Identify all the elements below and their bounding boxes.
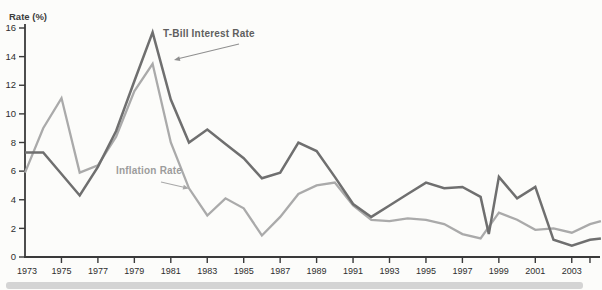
x-tick-label: 1973 bbox=[17, 266, 37, 276]
series-lines bbox=[25, 32, 601, 245]
x-tick-label: 1989 bbox=[307, 266, 327, 276]
axes: 0246810121416197319751977197919811983198… bbox=[5, 22, 600, 276]
x-tick-label: 1985 bbox=[234, 266, 254, 276]
x-tick-label: 1979 bbox=[124, 266, 144, 276]
x-tick-label: 1993 bbox=[379, 266, 399, 276]
y-tick-label: 8 bbox=[11, 137, 16, 148]
tbill-arrow bbox=[177, 44, 239, 59]
scanned-chart-page: 0246810121416197319751977197919811983198… bbox=[0, 0, 602, 290]
y-tick-label: 12 bbox=[5, 79, 16, 90]
x-tick-label: 1987 bbox=[270, 266, 290, 276]
inflation-series-label: Inflation Rate bbox=[116, 165, 182, 176]
x-tick-label: 2001 bbox=[525, 266, 545, 276]
y-tick-label: 10 bbox=[5, 108, 16, 119]
x-tick-label: 1999 bbox=[489, 266, 509, 276]
x-tick-label: 1975 bbox=[51, 266, 71, 276]
x-tick-label: 1981 bbox=[161, 266, 181, 276]
rate-line-chart: 0246810121416197319751977197919811983198… bbox=[0, 0, 602, 290]
y-tick-label: 2 bbox=[11, 223, 16, 234]
y-tick-label: 0 bbox=[11, 251, 16, 262]
tbill-line bbox=[25, 32, 601, 245]
scanned-page-artifact-strip bbox=[6, 282, 583, 289]
x-tick-label: 1983 bbox=[197, 266, 217, 276]
x-tick-label: 2003 bbox=[562, 266, 582, 276]
y-tick-label: 6 bbox=[11, 165, 16, 176]
tbill-arrowhead-icon bbox=[174, 56, 180, 61]
y-axis-title: Rate (%) bbox=[9, 11, 47, 22]
annotations: Rate (%) T-Bill Interest Rate Inflation … bbox=[9, 11, 255, 190]
inflation-line bbox=[25, 64, 601, 239]
x-tick-label: 1995 bbox=[416, 266, 436, 276]
x-tick-label: 1997 bbox=[452, 266, 472, 276]
y-tick-label: 16 bbox=[5, 22, 16, 33]
x-tick-label: 1977 bbox=[88, 266, 108, 276]
inflation-arrow bbox=[161, 182, 186, 188]
x-tick-label: 1991 bbox=[343, 266, 363, 276]
y-tick-label: 4 bbox=[11, 194, 16, 205]
tbill-series-label: T-Bill Interest Rate bbox=[163, 28, 255, 39]
y-tick-label: 14 bbox=[5, 51, 16, 62]
